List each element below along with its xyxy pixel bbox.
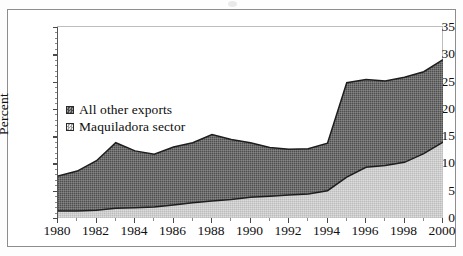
x-minor-tick — [153, 218, 154, 221]
x-tick-mark — [327, 218, 328, 223]
x-tick-mark — [173, 218, 174, 223]
chart-legend: All other exports Maquiladora sector — [66, 101, 185, 135]
x-minor-tick — [423, 218, 424, 221]
x-minor-tick — [307, 218, 308, 221]
x-minor-tick — [115, 218, 116, 221]
x-tick-mark — [365, 218, 366, 223]
x-minor-tick — [76, 218, 77, 221]
x-tick-mark — [288, 218, 289, 223]
x-tick-mark — [134, 218, 135, 223]
light-hatch-swatch — [66, 123, 74, 131]
legend-item-maquiladora-sector: Maquiladora sector — [66, 118, 185, 135]
x-tick-mark — [211, 218, 212, 223]
scan-artifact-speck — [228, 1, 237, 7]
y-axis-label: Percent — [0, 93, 12, 135]
legend-item-all-other-exports: All other exports — [66, 101, 185, 118]
x-minor-tick — [230, 218, 231, 221]
figure-frame: Percent 05101520253035198019821984198619… — [7, 9, 456, 247]
x-minor-tick — [346, 218, 347, 221]
x-tick-label: 2000 — [419, 223, 463, 239]
legend-label-all-other-exports: All other exports — [79, 102, 172, 118]
x-tick-mark — [250, 218, 251, 223]
x-tick-mark — [404, 218, 405, 223]
dark-hatch-swatch — [66, 106, 74, 114]
x-tick-mark — [442, 218, 443, 223]
x-minor-tick — [269, 218, 270, 221]
figure-container: Percent 05101520253035198019821984198619… — [0, 0, 463, 256]
x-tick-mark — [57, 218, 58, 223]
x-minor-tick — [192, 218, 193, 221]
x-minor-tick — [384, 218, 385, 221]
legend-label-maquiladora-sector: Maquiladora sector — [79, 119, 185, 135]
x-tick-mark — [96, 218, 97, 223]
